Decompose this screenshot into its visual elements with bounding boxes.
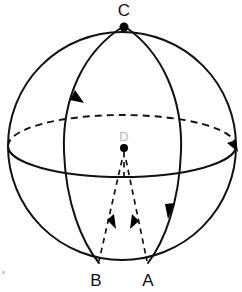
radius-D-to-A <box>126 160 147 261</box>
label-point-A: A <box>142 271 154 290</box>
point-marker-C <box>120 23 129 32</box>
meridian-arc-C-to-A <box>124 26 181 263</box>
label-point-C: C <box>118 1 130 20</box>
label-point-D: D <box>119 129 128 144</box>
label-point-B: B <box>90 271 101 290</box>
radius-D-to-B <box>99 160 122 261</box>
arrow-radius-DA-icon <box>130 214 139 229</box>
sphere-diagram-canvas: C D B A <box>0 0 242 292</box>
sphere-figure: C D B A <box>0 0 242 292</box>
point-marker-D <box>120 144 128 152</box>
scan-speck <box>2 271 5 274</box>
